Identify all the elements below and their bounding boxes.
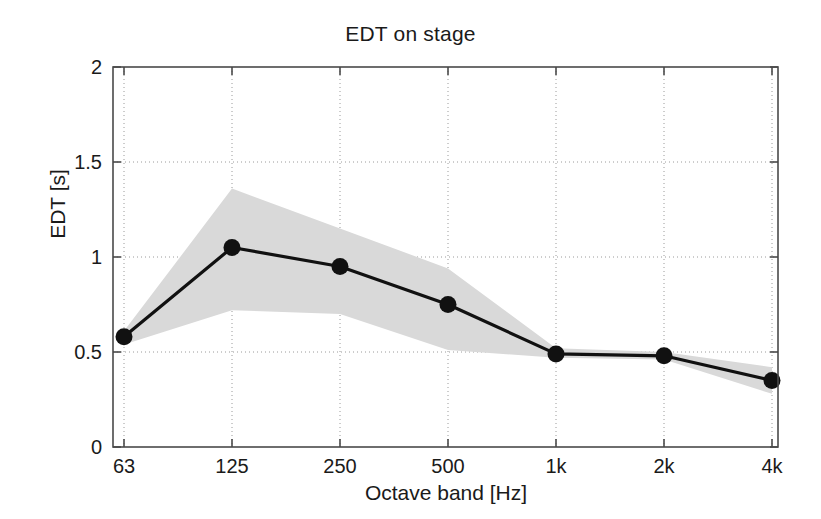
- chart-figure: EDT on stage EDT [s] Octave band [Hz] 0 …: [0, 0, 821, 519]
- plot-area: [0, 0, 821, 519]
- data-point-marker-500: [440, 296, 457, 313]
- data-point-marker-63: [116, 328, 133, 345]
- data-point-marker-250: [332, 258, 349, 275]
- data-point-marker-2k: [656, 347, 673, 364]
- data-point-marker-1k: [548, 345, 565, 362]
- data-point-marker-125: [224, 239, 241, 256]
